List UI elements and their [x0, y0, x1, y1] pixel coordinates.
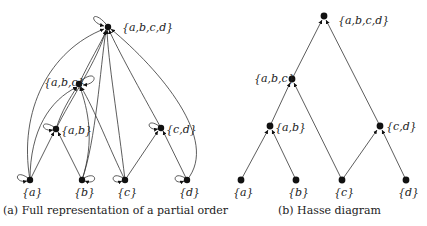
node-d: [184, 177, 190, 183]
edges-to-top: [27, 29, 196, 180]
edges-to-ab: [30, 132, 82, 180]
hasse-node-ab: [267, 123, 274, 130]
hasse-edges: [241, 20, 406, 180]
label-c: {c}: [117, 186, 137, 199]
hasse-label-ab: {a,b}: [275, 121, 306, 134]
label-a: {a}: [22, 186, 43, 199]
caption-a: (a) Full representation of a partial ord…: [3, 204, 229, 217]
node-ab: [53, 126, 59, 132]
node-b: [79, 177, 85, 183]
node-abcd: [105, 24, 111, 30]
hasse-node-c: [339, 177, 346, 184]
hasse-label-a: {a}: [233, 186, 254, 199]
hasse-nodes: [238, 13, 410, 184]
node-cd: [158, 125, 164, 131]
panel-a-full-representation: {a,b,c,d} {a,b,c} {a,b} {c,d} {a} {b} {c…: [3, 17, 229, 217]
label-abc: {a,b,c}: [44, 76, 85, 89]
hasse-node-a: [238, 177, 245, 184]
hasse-label-abcd: {a,b,c,d}: [338, 14, 389, 27]
node-a: [27, 177, 33, 183]
edges-to-cd: [125, 131, 187, 180]
panel-b-hasse-diagram: {a,b,c,d} {a,b,c} {a,b} {c,d} {a} {b} {c…: [233, 13, 419, 217]
label-cd: {c,d}: [166, 123, 197, 136]
hasse-label-abc: {a,b,c}: [254, 72, 295, 85]
node-c: [122, 177, 128, 183]
hasse-node-b: [293, 177, 300, 184]
hasse-label-c: {c}: [334, 186, 354, 199]
label-ab: {a,b}: [61, 124, 92, 137]
hasse-node-cd: [377, 123, 384, 130]
partial-order-figure: {a,b,c,d} {a,b,c} {a,b} {c,d} {a} {b} {c…: [0, 0, 427, 226]
hasse-label-b: {b}: [288, 186, 309, 199]
hasse-node-abcd: [321, 13, 328, 20]
label-b: {b}: [74, 186, 95, 199]
label-abcd: {a,b,c,d}: [122, 21, 173, 34]
label-d: {d}: [179, 186, 200, 199]
hasse-label-cd: {c,d}: [386, 120, 417, 133]
caption-b: (b) Hasse diagram: [278, 204, 382, 217]
hasse-label-d: {d}: [398, 186, 419, 199]
hasse-node-d: [403, 177, 410, 184]
